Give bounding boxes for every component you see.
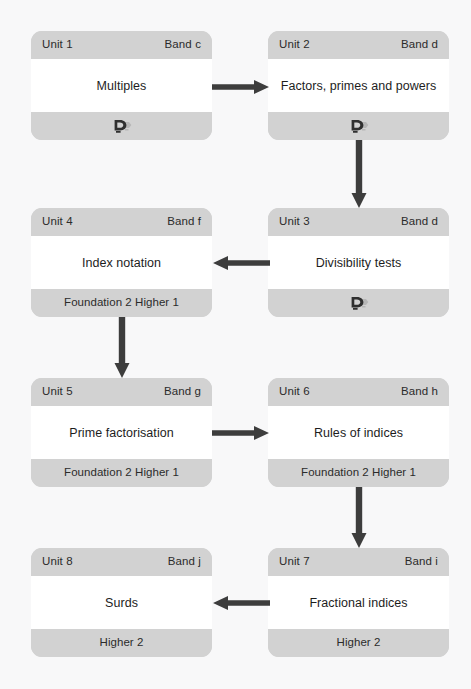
unit-card-header: Unit 6 Band h	[268, 378, 449, 406]
unit-number-label: Unit 4	[42, 216, 73, 228]
arrow-unit4-to-unit5	[113, 317, 131, 379]
unit-card-header: Unit 3 Band d	[268, 208, 449, 236]
unit-card-header: Unit 4 Band f	[31, 208, 212, 236]
pathway-label: Foundation 2 Higher 1	[64, 297, 179, 309]
pathway-label: Foundation 2 Higher 1	[301, 467, 416, 479]
unit-number-label: Unit 6	[279, 386, 310, 398]
unit-card-footer	[268, 112, 449, 140]
unit-card-header: Unit 8 Band j	[31, 548, 212, 576]
unit-number-label: Unit 7	[279, 556, 310, 568]
band-label: Band d	[401, 216, 438, 228]
unit-card-body: Prime factorisation	[31, 406, 212, 459]
unit-topic-label: Rules of indices	[314, 425, 403, 441]
unit-card-footer	[31, 112, 212, 140]
band-label: Band d	[401, 39, 438, 51]
unit-card-footer	[268, 289, 449, 317]
arrow-unit7-to-unit8	[212, 594, 270, 612]
unit-card-body: Rules of indices	[268, 406, 449, 459]
unit-number-label: Unit 8	[42, 556, 73, 568]
band-label: Band i	[405, 556, 438, 568]
band-label: Band c	[165, 39, 201, 51]
band-label: Band j	[168, 556, 201, 568]
unit-number-label: Unit 3	[279, 216, 310, 228]
brand-d-icon	[346, 294, 372, 312]
arrow-unit6-to-unit7	[350, 487, 368, 549]
pathway-label: Foundation 2 Higher 1	[64, 467, 179, 479]
unit-topic-label: Multiples	[97, 78, 147, 94]
unit-topic-label: Factors, primes and powers	[281, 78, 437, 94]
unit-card-footer: Foundation 2 Higher 1	[31, 459, 212, 487]
pathway-label: Higher 2	[100, 637, 144, 649]
arrow-unit3-to-unit4	[212, 254, 270, 272]
unit-card-unit-5[interactable]: Unit 5 Band g Prime factorisation Founda…	[31, 378, 212, 487]
unit-topic-label: Index notation	[82, 255, 161, 271]
arrow-unit5-to-unit6	[212, 424, 270, 442]
unit-card-body: Factors, primes and powers	[268, 59, 449, 112]
unit-card-body: Divisibility tests	[268, 236, 449, 289]
unit-card-header: Unit 1 Band c	[31, 31, 212, 59]
unit-topic-label: Fractional indices	[309, 595, 407, 611]
band-label: Band f	[167, 216, 201, 228]
unit-card-footer: Higher 2	[268, 629, 449, 657]
unit-card-body: Multiples	[31, 59, 212, 112]
unit-number-label: Unit 1	[42, 39, 73, 51]
unit-card-unit-1[interactable]: Unit 1 Band c Multiples	[31, 31, 212, 140]
band-label: Band g	[164, 386, 201, 398]
unit-card-footer: Foundation 2 Higher 1	[31, 289, 212, 317]
unit-card-unit-6[interactable]: Unit 6 Band h Rules of indices Foundatio…	[268, 378, 449, 487]
unit-number-label: Unit 5	[42, 386, 73, 398]
unit-card-unit-3[interactable]: Unit 3 Band d Divisibility tests	[268, 208, 449, 317]
unit-card-body: Fractional indices	[268, 576, 449, 629]
unit-card-unit-7[interactable]: Unit 7 Band i Fractional indices Higher …	[268, 548, 449, 657]
unit-card-header: Unit 7 Band i	[268, 548, 449, 576]
unit-card-unit-2[interactable]: Unit 2 Band d Factors, primes and powers	[268, 31, 449, 140]
unit-number-label: Unit 2	[279, 39, 310, 51]
unit-topic-label: Divisibility tests	[316, 255, 402, 271]
brand-d-icon	[346, 117, 372, 135]
unit-card-body: Index notation	[31, 236, 212, 289]
unit-card-body: Surds	[31, 576, 212, 629]
unit-card-header: Unit 2 Band d	[268, 31, 449, 59]
unit-card-footer: Foundation 2 Higher 1	[268, 459, 449, 487]
flowchart-canvas: Unit 1 Band c Multiples Unit 2 Band d Fa…	[0, 0, 471, 689]
unit-card-unit-8[interactable]: Unit 8 Band j Surds Higher 2	[31, 548, 212, 657]
unit-topic-label: Prime factorisation	[69, 425, 173, 441]
arrow-unit1-to-unit2	[212, 78, 270, 96]
unit-card-footer: Higher 2	[31, 629, 212, 657]
pathway-label: Higher 2	[337, 637, 381, 649]
band-label: Band h	[401, 386, 438, 398]
arrow-unit2-to-unit3	[350, 140, 368, 209]
unit-card-unit-4[interactable]: Unit 4 Band f Index notation Foundation …	[31, 208, 212, 317]
unit-topic-label: Surds	[105, 595, 138, 611]
brand-d-icon	[109, 117, 135, 135]
unit-card-header: Unit 5 Band g	[31, 378, 212, 406]
